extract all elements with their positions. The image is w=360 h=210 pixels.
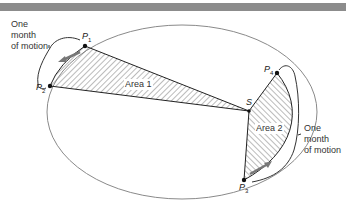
label-p3: P3 — [239, 182, 248, 194]
point-p2 — [48, 84, 52, 88]
label-p1: P1 — [82, 31, 91, 43]
right-annotation: One month of motion — [304, 123, 341, 156]
point-p4 — [275, 71, 279, 75]
point-p1 — [83, 44, 87, 48]
point-sun — [247, 109, 251, 113]
label-sun: S — [246, 97, 252, 107]
left-annotation: One month of motion — [11, 19, 48, 52]
orbit-diagram — [0, 0, 360, 210]
area-2-label: Area 2 — [255, 123, 284, 134]
area-1-label: Area 1 — [124, 79, 153, 90]
label-p2: P2 — [36, 82, 45, 94]
label-p4: P4 — [264, 64, 273, 76]
